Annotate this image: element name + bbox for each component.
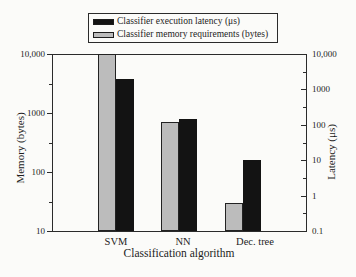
right-axis-tick-label: 1000 [312,85,330,94]
left-axis-tick-label: 100 [12,168,45,177]
right-axis-major-tick [301,231,306,232]
bar-memory-nn [161,122,179,231]
left-axis-major-tick [47,231,52,232]
right-axis-minor-tick [303,72,306,73]
x-tick-label-dec-tree: Dec. tree [236,236,274,247]
left-axis-major-tick [47,113,52,114]
right-axis-tick-label: 1 [312,192,317,201]
bar-latency-dec-tree [243,160,261,231]
left-axis-major-tick [47,172,52,173]
bar-latency-svm [116,79,134,231]
right-axis-major-tick [301,54,306,55]
left-axis-minor-tick [49,143,52,144]
legend-item-memory: Classifier memory requirements (bytes) [93,29,274,40]
left-axis-tick-label: 10,000 [12,50,45,59]
right-axis-major-tick [301,89,306,90]
right-axis-major-tick [301,160,306,161]
right-axis-tick-label: 10,000 [312,50,337,59]
x-axis-title: Classification algorithm [124,247,235,259]
right-axis-title: Latency (μs) [325,124,337,180]
memory-swatch-icon [93,32,114,38]
legend-label-latency: Classifier execution latency (μs) [117,16,240,27]
bar-latency-nn [179,119,197,231]
right-axis-minor-tick [303,143,306,144]
left-axis-minor-tick [49,84,52,85]
right-axis-minor-tick [303,107,306,108]
figure: Classifier execution latency (μs) Classi… [0,0,356,277]
x-tick-label-svm: SVM [105,236,128,247]
right-axis-tick-label: 100 [312,121,326,130]
right-axis-minor-tick [303,213,306,214]
x-tick-label-nn: NN [175,236,190,247]
left-axis-minor-tick [49,202,52,203]
bar-memory-svm [98,54,116,231]
right-axis-tick-label: 10 [312,156,321,165]
latency-swatch-icon [93,19,114,25]
legend-label-memory: Classifier memory requirements (bytes) [117,29,268,40]
left-axis-tick-label: 1000 [12,109,45,118]
right-axis-major-tick [301,125,306,126]
left-axis-major-tick [47,54,52,55]
legend-item-latency: Classifier execution latency (μs) [93,16,274,27]
legend-box: Classifier execution latency (μs) Classi… [88,13,278,43]
bar-memory-dec-tree [225,203,243,231]
right-axis-minor-tick [303,178,306,179]
right-axis-major-tick [301,196,306,197]
left-axis-tick-label: 10 [12,227,45,236]
right-axis-tick-label: 0.1 [312,227,323,236]
